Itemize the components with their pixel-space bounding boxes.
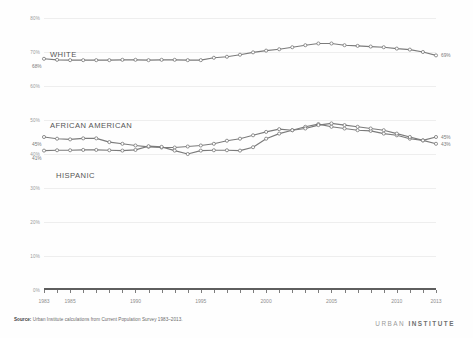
data-point-marker (147, 59, 150, 62)
data-point-marker (108, 59, 111, 62)
x-axis-tick-mark (266, 290, 267, 293)
data-point-marker (173, 58, 176, 61)
data-point-marker (121, 142, 124, 145)
logo-word-institute: INSTITUTE (408, 320, 455, 327)
data-point-marker (343, 44, 346, 47)
data-point-marker (382, 132, 385, 135)
data-point-marker (95, 137, 98, 140)
x-axis-tick-mark (345, 290, 346, 293)
data-point-marker (225, 149, 228, 152)
data-point-marker (278, 132, 281, 135)
series-lines-group (44, 18, 436, 290)
series-label-african-american: AFRICAN AMERICAN (50, 121, 132, 130)
series-line-0 (44, 44, 436, 61)
data-point-marker (199, 59, 202, 62)
data-point-marker (382, 46, 385, 49)
data-point-marker (186, 145, 189, 148)
y-axis-tick-label: 60% (30, 84, 40, 89)
x-axis-tick-mark (109, 290, 110, 293)
x-axis-tick-mark (423, 290, 424, 293)
series-start-value-label: 41% (32, 155, 42, 160)
data-point-marker (160, 145, 163, 148)
data-point-marker (278, 48, 281, 51)
data-point-marker (330, 125, 333, 128)
data-point-marker (421, 50, 424, 53)
y-axis-tick-label: 70% (30, 50, 40, 55)
data-point-marker (252, 146, 255, 149)
data-point-marker (395, 47, 398, 50)
series-end-value-label: 45% (441, 135, 451, 140)
data-point-marker (434, 54, 437, 57)
slide-canvas: 0%10%20%30%40%50%60%70%80% 1983198519901… (0, 0, 473, 338)
data-point-marker (369, 127, 372, 130)
data-point-marker (225, 139, 228, 142)
x-axis-tick-mark (149, 290, 150, 293)
series-label-white: WHITE (50, 50, 77, 59)
data-point-marker (225, 55, 228, 58)
x-axis-tick-label: 1995 (195, 298, 206, 304)
x-axis-tick-mark (162, 290, 163, 293)
data-point-marker (265, 49, 268, 52)
data-point-marker (42, 149, 45, 152)
series-start-value-label: 45% (32, 142, 42, 147)
data-point-marker (42, 135, 45, 138)
x-axis-tick-label: 2000 (261, 298, 272, 304)
data-point-marker (330, 42, 333, 45)
data-point-marker (134, 144, 137, 147)
data-point-marker (56, 137, 59, 140)
data-point-marker (330, 122, 333, 125)
x-axis-tick-mark (83, 290, 84, 293)
data-point-marker (356, 125, 359, 128)
x-axis-tick-mark (305, 290, 306, 293)
data-point-marker (173, 146, 176, 149)
y-axis-tick-label: 10% (30, 254, 40, 259)
data-point-marker (291, 129, 294, 132)
data-point-marker (212, 149, 215, 152)
data-point-marker (278, 128, 281, 131)
data-point-marker (408, 48, 411, 51)
x-axis-tick-label: 2005 (326, 298, 337, 304)
data-point-marker (42, 57, 45, 60)
data-point-marker (434, 135, 437, 138)
data-point-marker (69, 138, 72, 141)
data-point-marker (343, 124, 346, 127)
data-point-marker (160, 58, 163, 61)
data-point-marker (199, 149, 202, 152)
source-note: Source: Urban Institute calculations fro… (14, 317, 183, 322)
x-axis-tick-mark (436, 290, 437, 293)
data-point-marker (134, 148, 137, 151)
x-axis-tick-mark (44, 290, 45, 293)
x-axis-tick-mark (227, 290, 228, 293)
x-axis-tick-mark (397, 290, 398, 293)
series-end-value-label: 43% (441, 141, 451, 146)
data-point-marker (395, 132, 398, 135)
data-point-marker (343, 127, 346, 130)
x-axis-tick-mark (70, 290, 71, 293)
x-axis-tick-mark (279, 290, 280, 293)
data-point-marker (69, 149, 72, 152)
x-axis-tick-label: 2010 (391, 298, 402, 304)
data-point-marker (186, 59, 189, 62)
data-point-marker (369, 45, 372, 48)
data-point-marker (304, 127, 307, 130)
series-end-value-label: 69% (441, 53, 451, 58)
x-axis-tick-label: 1990 (130, 298, 141, 304)
data-point-marker (82, 59, 85, 62)
y-axis-tick-label: 50% (30, 118, 40, 123)
data-point-marker (121, 58, 124, 61)
data-point-marker (82, 148, 85, 151)
x-axis-tick-mark (135, 290, 136, 293)
x-axis-tick-mark (96, 290, 97, 293)
x-axis-tick-mark (371, 290, 372, 293)
data-point-marker (317, 124, 320, 127)
y-axis-tick-label: 30% (30, 186, 40, 191)
data-point-marker (291, 46, 294, 49)
x-axis-tick-mark (358, 290, 359, 293)
x-axis-tick-label: 1985 (65, 298, 76, 304)
data-point-marker (95, 148, 98, 151)
data-point-marker (69, 59, 72, 62)
series-label-hispanic: HISPANIC (56, 171, 95, 180)
source-text: Urban Institute calculations from Curren… (33, 317, 183, 322)
logo-word-urban: URBAN (375, 320, 405, 327)
data-point-marker (134, 58, 137, 61)
